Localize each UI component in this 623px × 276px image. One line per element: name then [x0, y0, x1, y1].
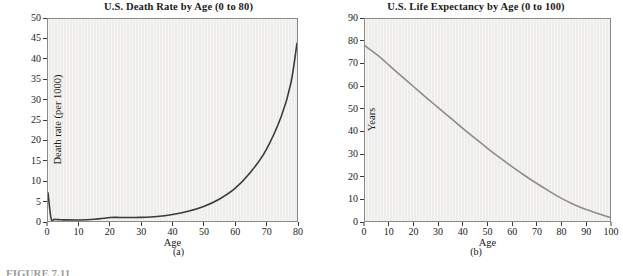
y-tick: 90: [348, 13, 364, 23]
x-tick-label: 0: [45, 227, 50, 237]
y-tick-mark: [360, 40, 364, 41]
death-rate-curve: [48, 19, 297, 221]
x-tick-label: 80: [557, 227, 567, 237]
y-tick: 10: [348, 194, 364, 204]
x-tick: 30: [136, 222, 146, 237]
x-tick-label: 60: [507, 227, 517, 237]
y-tick-label: 60: [348, 81, 360, 91]
y-tick-mark: [360, 131, 364, 132]
y-tick: 5: [36, 197, 47, 207]
y-tick-label: 0: [36, 217, 43, 227]
x-tick-label: 20: [105, 227, 115, 237]
figure-page: U.S. Death Rate by Age (0 to 80) 0510152…: [0, 0, 623, 276]
x-tick-label: 10: [384, 227, 394, 237]
y-tick-mark: [43, 79, 47, 80]
y-tick-label: 0: [353, 217, 360, 227]
chart-title-a: U.S. Death Rate by Age (0 to 80): [0, 1, 335, 12]
y-tick: 50: [348, 104, 364, 114]
y-tick-label: 45: [31, 33, 43, 43]
y-tick: 35: [31, 74, 47, 84]
y-tick-label: 80: [348, 36, 360, 46]
x-tick: 50: [199, 222, 209, 237]
y-tick: 40: [348, 126, 364, 136]
y-tick: 15: [31, 156, 47, 166]
x-tick-label: 80: [293, 227, 303, 237]
y-tick: 45: [31, 33, 47, 43]
y-tick: 10: [31, 176, 47, 186]
x-tick: 30: [433, 222, 443, 237]
x-tick: 60: [230, 222, 240, 237]
x-tick: 70: [532, 222, 542, 237]
x-tick: 10: [384, 222, 394, 237]
x-tick-label: 70: [262, 227, 272, 237]
x-tick: 90: [581, 222, 591, 237]
y-tick-label: 5: [36, 197, 43, 207]
y-tick-label: 40: [348, 126, 360, 136]
y-tick-label: 40: [31, 54, 43, 64]
plot-wrap-b: 0102030405060708090 01020304050607080901…: [364, 18, 611, 222]
y-tick-label: 30: [348, 149, 360, 159]
x-tick: 50: [483, 222, 493, 237]
x-tick: 40: [458, 222, 468, 237]
y-tick-mark: [360, 154, 364, 155]
y-tick-mark: [360, 86, 364, 87]
x-tick: 80: [557, 222, 567, 237]
y-tick-label: 30: [31, 95, 43, 105]
plot-wrap-a: 05101520253035404550 01020304050607080 A…: [47, 18, 298, 222]
y-tick: 25: [31, 115, 47, 125]
figure-row: U.S. Death Rate by Age (0 to 80) 0510152…: [0, 0, 623, 266]
y-tick-mark: [43, 140, 47, 141]
x-tick-label: 0: [362, 227, 367, 237]
y-tick-label: 50: [31, 13, 43, 23]
y-tick-label: 20: [31, 135, 43, 145]
chart-panel-b: U.S. Life Expectancy by Age (0 to 100) 0…: [313, 0, 623, 266]
y-tick-label: 50: [348, 104, 360, 114]
figure-caption: FIGURE 7.11: [6, 267, 70, 276]
y-tick-label: 15: [31, 156, 43, 166]
x-tick: 100: [604, 222, 619, 237]
y-tick: 20: [31, 135, 47, 145]
y-tick: 30: [31, 95, 47, 105]
sub-caption-a: (a): [0, 246, 335, 257]
y-tick-mark: [43, 120, 47, 121]
y-tick-mark: [360, 176, 364, 177]
x-tick: 40: [168, 222, 178, 237]
x-tick: 70: [262, 222, 272, 237]
x-tick: 10: [73, 222, 83, 237]
y-tick-label: 10: [348, 194, 360, 204]
y-tick-mark: [43, 201, 47, 202]
y-tick-label: 35: [31, 74, 43, 84]
x-tick: 20: [105, 222, 115, 237]
x-tick-label: 70: [532, 227, 542, 237]
y-tick-mark: [43, 38, 47, 39]
y-tick-mark: [43, 18, 47, 19]
x-tick-label: 50: [483, 227, 493, 237]
y-tick-label: 10: [31, 176, 43, 186]
y-tick-mark: [43, 99, 47, 100]
plot-area-a: [47, 18, 298, 222]
y-tick-label: 70: [348, 58, 360, 68]
x-tick-label: 30: [433, 227, 443, 237]
x-tick: 20: [408, 222, 418, 237]
x-tick-label: 40: [458, 227, 468, 237]
y-tick-mark: [360, 108, 364, 109]
x-tick-label: 10: [73, 227, 83, 237]
chart-title-b: U.S. Life Expectancy by Age (0 to 100): [313, 1, 623, 12]
y-tick: 60: [348, 81, 364, 91]
life-expectancy-curve: [365, 19, 610, 221]
y-tick-mark: [43, 181, 47, 182]
y-axis-label-b: Years: [366, 35, 377, 205]
y-tick-mark: [360, 63, 364, 64]
x-tick-label: 30: [136, 227, 146, 237]
y-tick: 40: [31, 54, 47, 64]
y-tick-mark: [43, 160, 47, 161]
y-tick-label: 20: [348, 172, 360, 182]
y-tick-label: 90: [348, 13, 360, 23]
x-tick-label: 100: [604, 227, 619, 237]
x-tick-label: 60: [230, 227, 240, 237]
chart-panel-a: U.S. Death Rate by Age (0 to 80) 0510152…: [0, 0, 313, 266]
x-tick: 0: [362, 222, 367, 237]
x-tick: 80: [293, 222, 303, 237]
sub-caption-b: (b): [313, 246, 623, 257]
x-tick-label: 50: [199, 227, 209, 237]
